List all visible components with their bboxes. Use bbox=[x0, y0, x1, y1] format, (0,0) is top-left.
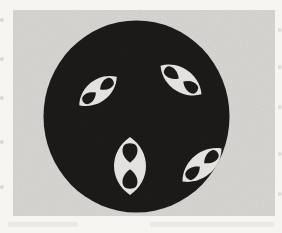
edge-smudge-right bbox=[278, 152, 282, 156]
edge-smudge-right bbox=[278, 192, 282, 196]
edge-smudge-left bbox=[0, 96, 4, 100]
edge-smudge-right bbox=[278, 105, 282, 109]
edge-smudge-right bbox=[278, 65, 282, 69]
edge-smudge-left bbox=[0, 18, 4, 22]
figure-illustration bbox=[0, 0, 282, 233]
edge-smudge-left bbox=[0, 140, 4, 144]
bottom-ghost-mark bbox=[8, 222, 78, 227]
scanned-page bbox=[0, 0, 282, 233]
edge-smudge-right bbox=[278, 28, 282, 32]
scan-grain-overlay bbox=[13, 10, 275, 216]
bottom-ghost-mark bbox=[150, 222, 274, 227]
edge-smudge-left bbox=[0, 57, 4, 61]
edge-smudge-left bbox=[0, 185, 4, 189]
